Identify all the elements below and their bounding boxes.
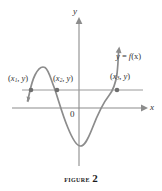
- x-axis-label: x: [150, 103, 154, 112]
- figure-container: y x 0 (x1, y) (x2, y) (x3, y) y = f(x) F…: [0, 0, 162, 191]
- point-marker-x2: [55, 88, 60, 93]
- function-label-argument: (x): [131, 51, 141, 61]
- origin-label: 0: [70, 110, 75, 119]
- point-marker-x1: [29, 88, 34, 93]
- function-label: y = f(x): [116, 52, 141, 61]
- point-label-x3-close: ): [127, 71, 130, 81]
- point-label-x1-subscript: 1: [15, 77, 18, 83]
- y-axis-label: y: [73, 7, 77, 16]
- point-label-x2-subscript: 2: [60, 77, 63, 83]
- point-label-x2: (x2, y): [53, 74, 73, 83]
- x-axis-arrowhead: [141, 105, 148, 112]
- point-label-x1-close: ): [25, 73, 28, 83]
- point-label-x3-subscript: 3: [117, 75, 120, 81]
- figure-caption: Figure 2: [0, 172, 162, 184]
- point-label-x2-close: ): [70, 73, 73, 83]
- function-label-equals: =: [120, 51, 129, 61]
- function-curve: [28, 51, 119, 146]
- figure-caption-word: Figure: [64, 175, 90, 184]
- point-label-x1: (x1, y): [8, 74, 28, 83]
- point-marker-x3: [115, 88, 120, 93]
- x-axis: [12, 105, 148, 112]
- point-label-x3: (x3, y): [110, 72, 130, 81]
- graph-plot: [0, 0, 162, 191]
- y-axis-arrowhead: [76, 17, 83, 24]
- figure-caption-number: 2: [92, 172, 98, 184]
